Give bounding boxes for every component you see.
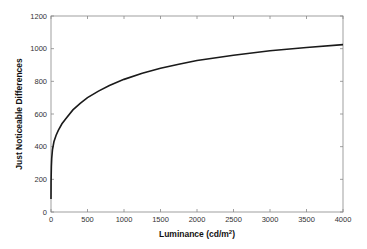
x-tick-label: 1500 xyxy=(152,215,169,224)
x-axis-label-main: Luminance (cd/m xyxy=(159,229,229,239)
x-axis-label: Luminance (cd/m2) xyxy=(159,229,235,240)
x-tick-label: 500 xyxy=(81,215,94,224)
x-tick-label: 2000 xyxy=(189,215,206,224)
x-tick-label: 2500 xyxy=(225,215,242,224)
y-tick-label: 1000 xyxy=(30,44,47,53)
x-tick-label: 0 xyxy=(49,215,53,224)
y-axis-label: Just Noticeable Differences xyxy=(14,58,24,170)
y-tick-label: 800 xyxy=(34,77,47,86)
y-tick-label: 400 xyxy=(34,142,47,151)
x-tick-label: 3000 xyxy=(262,215,279,224)
x-tick-label: 1000 xyxy=(116,215,133,224)
y-tick-label: 1200 xyxy=(30,12,47,21)
plot-area xyxy=(51,16,343,212)
y-tick-label: 600 xyxy=(34,110,47,119)
y-tick-label: 200 xyxy=(34,175,47,184)
y-tick-label: 0 xyxy=(43,208,47,217)
x-axis-label-suffix: ) xyxy=(232,229,235,239)
x-tick-label: 3500 xyxy=(298,215,315,224)
x-tick-label: 4000 xyxy=(335,215,352,224)
jnd-chart: 05001000150020002500300035004000 0200400… xyxy=(0,0,367,249)
